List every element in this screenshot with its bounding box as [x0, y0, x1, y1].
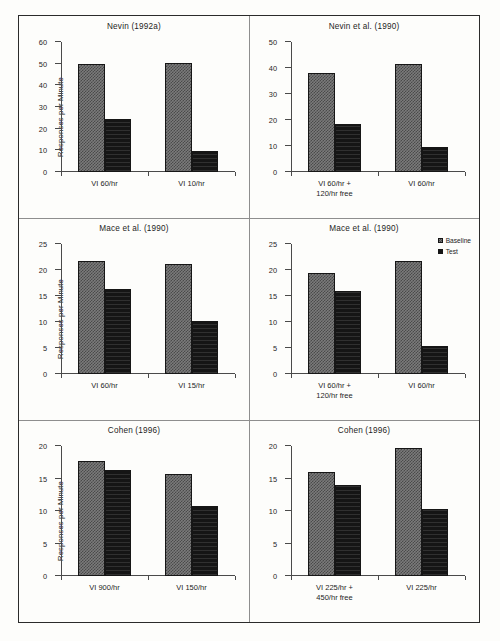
y-axis-tick-label: 0: [43, 572, 47, 581]
bar-baseline[interactable]: [78, 261, 105, 374]
x-axis-tick: [291, 576, 292, 580]
y-axis-tick-label: 20: [39, 124, 47, 133]
bar-pair: [395, 446, 449, 576]
x-axis-tick: [148, 172, 149, 176]
bar-groups: VI 60/hrVI 15/hr: [61, 244, 235, 374]
plot-area: 0510152025VI 60/hr +120/hr freeVI 60/hr: [291, 244, 465, 374]
bar-baseline[interactable]: [165, 264, 192, 374]
panel-title: Mace et al. (1990): [249, 224, 479, 233]
bar-groups: VI 225/hr +450/hr freeVI 225/hr: [291, 446, 465, 576]
y-axis-tick-label: 10: [39, 146, 47, 155]
x-axis-tick: [235, 374, 236, 378]
y-axis-tick-label: 30: [269, 90, 277, 99]
y-axis-tick-label: 10: [269, 318, 277, 327]
panel-title: Nevin (1992a): [19, 22, 249, 31]
x-axis-tick: [465, 576, 466, 580]
x-axis-tick: [291, 172, 292, 176]
bar-pair: [308, 244, 362, 374]
bar-group: VI 60/hr +120/hr free: [291, 42, 378, 172]
y-axis-tick-label: 20: [269, 116, 277, 125]
x-axis-category-label: VI 150/hr: [136, 583, 247, 593]
bar-baseline[interactable]: [165, 474, 192, 576]
y-axis-tick-label: 25: [39, 240, 47, 249]
x-axis-tick: [61, 172, 62, 176]
x-axis-tick: [61, 374, 62, 378]
y-axis-tick-label: 20: [269, 442, 277, 451]
y-axis-tick-label: 10: [269, 507, 277, 516]
bar-baseline[interactable]: [78, 64, 105, 172]
bar-test[interactable]: [192, 321, 219, 374]
bar-pair: [78, 244, 132, 374]
bar-group: VI 60/hr +120/hr free: [291, 244, 378, 374]
panel-title: Cohen (1996): [249, 426, 479, 435]
bar-test[interactable]: [105, 119, 132, 172]
y-axis-tick-label: 0: [273, 572, 277, 581]
y-axis-tick-label: 20: [39, 442, 47, 451]
bar-test[interactable]: [105, 470, 132, 576]
bar-test[interactable]: [105, 289, 132, 374]
bar-pair: [165, 446, 219, 576]
bar-test[interactable]: [335, 124, 362, 172]
panel-bottom-left: Cohen (1996) Responses per Minute 051015…: [19, 420, 249, 622]
bar-test[interactable]: [192, 151, 219, 172]
bar-groups: VI 60/hr +120/hr freeVI 60/hr: [291, 244, 465, 374]
plot-area: 05101520VI 900/hrVI 150/hr: [61, 446, 235, 576]
bar-group: VI 60/hr: [61, 244, 148, 374]
x-axis-category-label: VI 60/hr: [366, 179, 477, 189]
x-axis-tick: [291, 374, 292, 378]
bar-test[interactable]: [422, 147, 449, 172]
bar-pair: [78, 42, 132, 172]
bar-pair: [395, 42, 449, 172]
bar-baseline[interactable]: [308, 472, 335, 576]
bar-group: VI 60/hr: [378, 42, 465, 172]
bar-baseline[interactable]: [308, 273, 335, 374]
bar-groups: VI 60/hr +120/hr freeVI 60/hr: [291, 42, 465, 172]
figure-frame: Nevin (1992a) Responses per Minute 01020…: [18, 15, 480, 623]
y-axis-tick-label: 10: [39, 507, 47, 516]
x-axis-tick: [235, 172, 236, 176]
y-axis-tick-label: 5: [43, 344, 47, 353]
plot-area: 01020304050VI 60/hr +120/hr freeVI 60/hr: [291, 42, 465, 172]
y-axis-tick-label: 5: [273, 344, 277, 353]
bar-group: VI 150/hr: [148, 446, 235, 576]
panel-title: Cohen (1996): [19, 426, 249, 435]
bar-test[interactable]: [335, 291, 362, 374]
y-axis-tick-label: 15: [39, 292, 47, 301]
y-axis-tick-label: 10: [269, 142, 277, 151]
panel-middle-left: Mace et al. (1990) Responses per Minute …: [19, 218, 249, 420]
bar-pair: [165, 42, 219, 172]
y-axis-tick-label: 25: [269, 240, 277, 249]
bar-group: VI 60/hr: [61, 42, 148, 172]
x-axis-tick: [465, 374, 466, 378]
bar-test[interactable]: [422, 509, 449, 576]
bar-baseline[interactable]: [78, 461, 105, 576]
x-axis-tick: [148, 374, 149, 378]
x-axis-tick: [465, 172, 466, 176]
bar-baseline[interactable]: [395, 64, 422, 172]
y-axis-tick-label: 15: [39, 474, 47, 483]
bar-test[interactable]: [192, 506, 219, 576]
y-axis-tick-label: 15: [269, 292, 277, 301]
y-axis-tick-label: 60: [39, 38, 47, 47]
bar-baseline[interactable]: [165, 63, 192, 172]
y-axis-tick-label: 0: [273, 370, 277, 379]
bar-baseline[interactable]: [395, 261, 422, 374]
bar-group: VI 225/hr: [378, 446, 465, 576]
bar-group: VI 225/hr +450/hr free: [291, 446, 378, 576]
y-axis-tick-label: 50: [39, 59, 47, 68]
x-axis-tick: [148, 576, 149, 580]
bar-baseline[interactable]: [395, 448, 422, 576]
y-axis-tick-label: 0: [43, 370, 47, 379]
y-axis-tick-label: 30: [39, 103, 47, 112]
panel-title: Nevin et al. (1990): [249, 22, 479, 31]
panel-middle-right: Mace et al. (1990) Baseline Test 0510152…: [249, 218, 479, 420]
plot-area: 05101520VI 225/hr +450/hr freeVI 225/hr: [291, 446, 465, 576]
x-axis-tick: [235, 576, 236, 580]
bar-baseline[interactable]: [308, 73, 335, 172]
plot-area: 0102030405060VI 60/hrVI 10/hr: [61, 42, 235, 172]
bar-test[interactable]: [335, 485, 362, 576]
bar-pair: [308, 446, 362, 576]
panel-title: Mace et al. (1990): [19, 224, 249, 233]
bar-test[interactable]: [422, 346, 449, 374]
panel-bottom-right: Cohen (1996) 05101520VI 225/hr +450/hr f…: [249, 420, 479, 622]
